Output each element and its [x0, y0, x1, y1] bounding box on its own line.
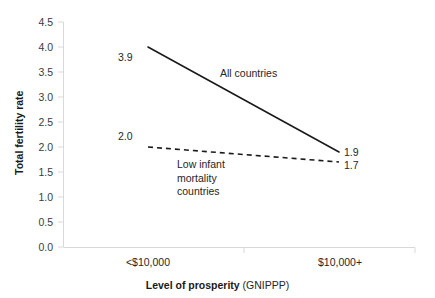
y-tick-label-3-0: 3.0	[19, 92, 53, 103]
y-tick-label-0-0: 0.0	[19, 242, 53, 253]
x-axis-title: Level of prosperity (GNIPPP)	[0, 276, 435, 292]
data-label-all-countries-right: 1.9	[344, 147, 359, 158]
y-tick-label-2-5: 2.5	[19, 117, 53, 128]
y-tick-label-1-5: 1.5	[19, 167, 53, 178]
x-tick-label-over-10000: $10,000+	[290, 257, 390, 268]
series-label-low-infant-mortality-line3: countries	[177, 185, 225, 199]
x-axis-title-plain: (GNIPPP)	[240, 279, 290, 291]
series-label-low-infant-mortality-line2: mortality	[177, 172, 225, 186]
y-axis-title: Total fertility rate	[14, 91, 25, 175]
x-axis-ticks	[244, 248, 415, 254]
y-tick-label-3-5: 3.5	[19, 67, 53, 78]
data-label-all-countries-left: 3.9	[118, 52, 133, 63]
chart-canvas	[0, 0, 435, 298]
data-label-low-infant-mortality-left: 2.0	[118, 131, 133, 142]
y-tick-label-1-0: 1.0	[19, 192, 53, 203]
series-all-countries-line	[148, 47, 339, 152]
y-tick-label-2-0: 2.0	[19, 142, 53, 153]
y-tick-label-0-5: 0.5	[19, 217, 53, 228]
series-label-low-infant-mortality: Low infant mortality countries	[177, 158, 225, 199]
x-axis-title-bold: Level of prosperity	[146, 279, 240, 291]
x-tick-label-under-10000: <$10,000	[98, 257, 198, 268]
y-tick-label-4-0: 4.0	[19, 42, 53, 53]
data-label-low-infant-mortality-right: 1.7	[344, 160, 359, 171]
fertility-prosperity-chart: Total fertility rate 4.5 4.0 3.5 3.0 2.5…	[0, 0, 435, 298]
series-label-all-countries: All countries	[220, 68, 277, 79]
y-tick-label-4-5: 4.5	[19, 17, 53, 28]
series-label-low-infant-mortality-line1: Low infant	[177, 158, 225, 172]
y-axis-ticks	[58, 22, 64, 247]
